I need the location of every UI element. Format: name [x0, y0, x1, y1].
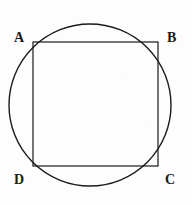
vertex-label-b: B [167, 31, 176, 45]
geometry-figure: A B C D [0, 0, 192, 205]
vertex-label-c: C [165, 173, 175, 187]
vertex-label-a: A [14, 31, 24, 45]
inscribed-square [33, 42, 158, 166]
diagram-canvas [0, 0, 192, 205]
vertex-label-d: D [14, 173, 24, 187]
